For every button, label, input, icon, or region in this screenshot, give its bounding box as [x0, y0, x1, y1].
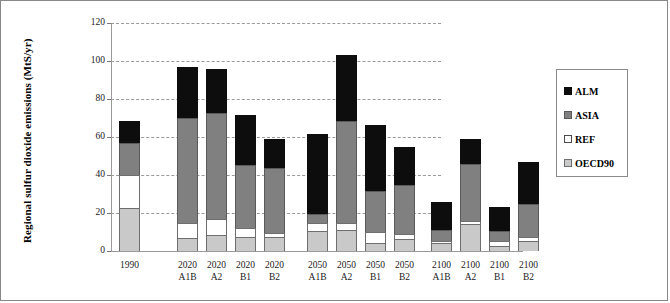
bar-segment-asia	[489, 231, 510, 241]
bar-segment-oecd90	[177, 238, 198, 251]
legend-item-oecd90[interactable]: OECD90	[564, 151, 627, 175]
bar-segment-asia	[235, 165, 256, 229]
bar-segment-asia	[264, 168, 285, 233]
legend-swatch-asia-icon	[564, 111, 572, 119]
bar-segment-alm	[431, 202, 452, 231]
bar-segment-oecd90	[489, 246, 510, 251]
x-tick-label: 1990	[108, 259, 152, 271]
bar-2020-A2[interactable]	[206, 69, 227, 251]
bar-segment-alm	[460, 139, 481, 164]
x-tick-label: 2020B2	[253, 259, 297, 283]
bar-segment-asia	[365, 191, 386, 232]
bar-segment-oecd90	[307, 231, 328, 251]
y-tick-label: 100	[71, 56, 105, 65]
x-label-year: 2020	[253, 259, 297, 271]
y-tick-mark	[107, 99, 111, 100]
y-tick-mark	[107, 61, 111, 62]
bar-segment-asia	[336, 121, 357, 223]
legend-swatch-ref-icon	[564, 135, 572, 143]
bar-segment-asia	[431, 230, 452, 240]
legend-item-ref[interactable]: REF	[564, 127, 627, 151]
x-tick-label: 2100B2	[507, 259, 551, 283]
bar-segment-asia	[394, 185, 415, 234]
bar-segment-ref	[365, 232, 386, 243]
y-tick-mark	[107, 175, 111, 176]
y-tick-label: 40	[71, 170, 105, 179]
bar-segment-alm	[394, 147, 415, 184]
bar-segment-alm	[518, 162, 539, 204]
bar-segment-ref	[119, 175, 140, 208]
bar-segment-asia	[206, 113, 227, 218]
y-tick-mark	[107, 137, 111, 138]
legend-item-asia[interactable]: ASIA	[564, 103, 627, 127]
bar-2100-B2[interactable]	[518, 162, 539, 251]
legend-label: ALM	[575, 86, 598, 97]
bar-segment-oecd90	[119, 208, 140, 251]
bar-segment-ref	[235, 228, 256, 237]
bar-1990[interactable]	[119, 121, 140, 251]
bar-2050-B1[interactable]	[365, 125, 386, 251]
bar-segment-oecd90	[336, 230, 357, 251]
bar-segment-oecd90	[235, 237, 256, 251]
bar-2050-A2[interactable]	[336, 55, 357, 251]
bar-segment-alm	[489, 207, 510, 231]
x-label-scenario: B2	[253, 271, 297, 283]
bar-segment-oecd90	[264, 237, 285, 251]
y-tick-label: 120	[71, 18, 105, 27]
bar-segment-alm	[177, 67, 198, 118]
bar-segment-asia	[307, 214, 328, 223]
bar-segment-alm	[336, 55, 357, 121]
bar-2100-A2[interactable]	[460, 139, 481, 251]
gridline	[111, 23, 441, 24]
bar-2020-B2[interactable]	[264, 139, 285, 251]
gridline	[111, 61, 441, 62]
x-axis-line	[111, 251, 523, 252]
legend-label: OECD90	[575, 158, 614, 169]
bar-2050-A1B[interactable]	[307, 134, 328, 251]
bar-segment-oecd90	[365, 243, 386, 251]
legend-item-alm[interactable]: ALM	[564, 79, 627, 103]
bar-segment-ref	[307, 223, 328, 232]
gridline	[111, 99, 441, 100]
bar-segment-alm	[307, 134, 328, 214]
bar-segment-oecd90	[518, 241, 539, 251]
bar-2100-A1B[interactable]	[431, 202, 452, 251]
legend-swatch-oecd90-icon	[564, 159, 572, 167]
legend-label: REF	[575, 134, 595, 145]
legend-swatch-alm-icon	[564, 87, 572, 95]
bar-segment-ref	[177, 223, 198, 238]
y-tick-label: 20	[71, 208, 105, 217]
bar-segment-ref	[336, 223, 357, 231]
x-label-scenario: B2	[507, 271, 551, 283]
bar-segment-oecd90	[431, 243, 452, 251]
bar-segment-alm	[206, 69, 227, 114]
y-tick-label: 80	[71, 94, 105, 103]
bar-segment-oecd90	[394, 239, 415, 251]
bar-segment-asia	[119, 143, 140, 175]
bar-2020-B1[interactable]	[235, 115, 256, 251]
bar-segment-oecd90	[460, 224, 481, 251]
bar-segment-oecd90	[206, 235, 227, 251]
bar-segment-asia	[460, 164, 481, 221]
bar-2020-A1B[interactable]	[177, 67, 198, 251]
gridline	[111, 137, 441, 138]
y-tick-label: 0	[71, 246, 105, 255]
bar-segment-alm	[365, 125, 386, 192]
y-tick-label: 60	[71, 132, 105, 141]
y-tick-mark	[107, 213, 111, 214]
bar-segment-alm	[264, 139, 285, 168]
x-label-year: 2100	[507, 259, 551, 271]
bar-segment-alm	[119, 121, 140, 143]
x-label-year: 1990	[108, 259, 152, 271]
figure-panel: Regional sulfur dioxide emissions (MtS/y…	[0, 0, 668, 301]
y-tick-mark	[107, 23, 111, 24]
bar-segment-alm	[235, 115, 256, 164]
bar-segment-asia	[177, 118, 198, 223]
y-axis-title: Regional sulfur dioxide emissions (MtS/y…	[21, 3, 35, 243]
bar-2050-B2[interactable]	[394, 147, 415, 251]
bar-segment-ref	[206, 219, 227, 235]
legend-label: ASIA	[575, 110, 599, 121]
bar-2100-B1[interactable]	[489, 207, 510, 251]
y-tick-mark	[107, 251, 111, 252]
bar-segment-asia	[518, 204, 539, 237]
